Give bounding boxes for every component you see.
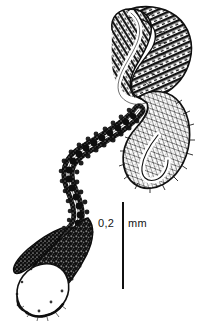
- figure-root: 0,2 mm: [0, 0, 201, 336]
- anatomical-drawing: [0, 0, 201, 336]
